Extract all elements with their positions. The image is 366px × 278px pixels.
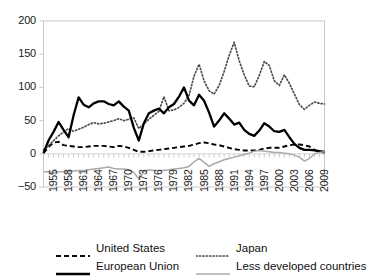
- legend-swatch-icon: [196, 248, 230, 252]
- y-axis-label-50: 50: [6, 115, 36, 126]
- x-axis-label-1967: 1967: [108, 169, 118, 192]
- series-line-united-states: [44, 142, 325, 153]
- x-axis-label-1976: 1976: [153, 169, 163, 192]
- x-axis-label-1955: 1955: [48, 169, 58, 192]
- y-axis-label-150: 150: [6, 48, 36, 59]
- legend-label: European Union: [96, 260, 179, 272]
- x-axis-label-1988: 1988: [214, 169, 224, 192]
- x-axis-label-1973: 1973: [138, 169, 148, 192]
- x-axis-label-1982: 1982: [183, 169, 193, 192]
- x-axis-label-1985: 1985: [199, 169, 209, 192]
- x-axis-label-2003: 2003: [289, 169, 299, 192]
- series-line-japan: [44, 42, 325, 150]
- x-axis-label-2009: 2009: [319, 169, 329, 192]
- legend-label: Japan: [236, 242, 267, 254]
- x-axis-label-1991: 1991: [229, 169, 239, 192]
- legend-swatch-icon: [196, 266, 230, 270]
- x-axis-label-1979: 1979: [168, 169, 178, 192]
- legend-swatch-icon: [56, 266, 90, 270]
- x-axis-label-1997: 1997: [259, 169, 269, 192]
- x-axis-label-1964: 1964: [93, 169, 103, 192]
- x-axis-label-2000: 2000: [274, 169, 284, 192]
- y-axis-label--50: −50: [6, 181, 36, 192]
- y-axis-label-0: 0: [6, 148, 36, 159]
- x-axis-label-1958: 1958: [63, 169, 73, 192]
- y-axis-label-200: 200: [6, 15, 36, 26]
- series-line-european-union: [44, 87, 325, 153]
- legend-label: Less developed countries: [236, 260, 366, 272]
- x-axis-label-1961: 1961: [78, 169, 88, 192]
- y-axis-label-100: 100: [6, 81, 36, 92]
- x-axis-label-2006: 2006: [304, 169, 314, 192]
- x-axis-label-1994: 1994: [244, 169, 254, 192]
- x-axis-label-1970: 1970: [123, 169, 133, 192]
- legend-label: United States: [96, 242, 165, 254]
- legend-swatch-icon: [56, 248, 90, 252]
